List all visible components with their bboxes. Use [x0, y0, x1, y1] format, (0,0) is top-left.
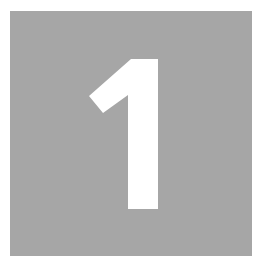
- number-tile: 1: [10, 11, 252, 256]
- numeral-one-glyph: 1: [10, 11, 252, 256]
